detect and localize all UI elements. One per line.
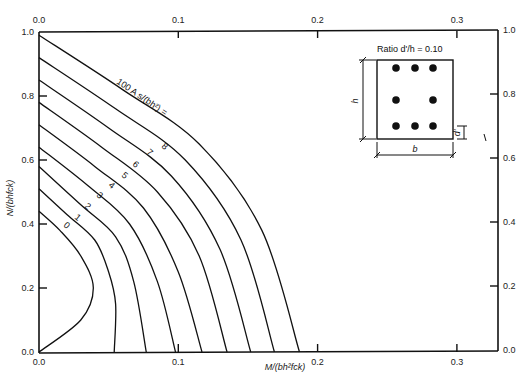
curve-label-8: 8 bbox=[160, 141, 170, 152]
right-y-tick-label: 0.6 bbox=[503, 153, 516, 163]
curve-label-5: 5 bbox=[120, 170, 130, 181]
curve-4 bbox=[39, 125, 202, 352]
y-tick-label: 0.8 bbox=[21, 91, 34, 101]
y-axis-title: N/(bhfck) bbox=[5, 180, 15, 217]
right-y-tick-label: 0.4 bbox=[503, 217, 516, 227]
stray-mark bbox=[484, 134, 486, 141]
curve-0 bbox=[39, 211, 93, 352]
curve-family-label: 100 A s/(bh²) = bbox=[115, 76, 169, 117]
y-tick-label: 0.4 bbox=[21, 219, 34, 229]
d-label: d' bbox=[452, 129, 462, 136]
curve-6 bbox=[39, 80, 251, 352]
x-axis-title: M/(bh²fck) bbox=[265, 362, 306, 372]
right-y-tick-label: 0.0 bbox=[503, 345, 516, 355]
h-label: h bbox=[350, 98, 360, 103]
x-tick-label: 0.1 bbox=[172, 357, 185, 367]
top-x-tick-label: 0.0 bbox=[33, 15, 46, 25]
b-label: b bbox=[412, 144, 417, 154]
interaction-chart: 0.00.10.20.30.00.10.20.30.00.20.40.60.81… bbox=[0, 0, 530, 382]
curve-label-6: 6 bbox=[131, 159, 141, 170]
ratio-label: Ratio d'/h = 0.10 bbox=[377, 44, 443, 54]
axis-tick-labels: 0.00.10.20.30.00.10.20.30.00.20.40.60.81… bbox=[21, 15, 515, 367]
top-x-tick-label: 0.1 bbox=[172, 15, 185, 25]
curve-labels: 012345678 bbox=[62, 141, 170, 231]
y-tick-label: 0.2 bbox=[21, 283, 34, 293]
column-section-inset: Ratio d'/h = 0.10 h b bbox=[350, 44, 486, 158]
curve-label-2: 2 bbox=[83, 201, 93, 212]
curve-label-7: 7 bbox=[145, 147, 155, 158]
right-y-tick-label: 1.0 bbox=[503, 25, 516, 35]
top-x-tick-label: 0.3 bbox=[451, 15, 464, 25]
curve-label-4: 4 bbox=[107, 180, 117, 191]
right-y-tick-label: 0.8 bbox=[503, 89, 516, 99]
curve-label-0: 0 bbox=[62, 220, 72, 231]
x-tick-label: 0.2 bbox=[311, 357, 324, 367]
y-tick-label: 0.6 bbox=[21, 155, 34, 165]
h-dimension bbox=[359, 57, 376, 142]
top-x-tick-label: 0.2 bbox=[311, 15, 324, 25]
x-tick-label: 0.3 bbox=[451, 357, 464, 367]
curve-3 bbox=[39, 147, 176, 352]
curve-family bbox=[39, 35, 299, 352]
y-tick-label: 0.0 bbox=[21, 347, 34, 357]
y-tick-label: 1.0 bbox=[21, 27, 34, 37]
right-y-tick-label: 0.2 bbox=[503, 281, 516, 291]
plot-frame bbox=[39, 30, 498, 353]
x-tick-label: 0.0 bbox=[33, 357, 46, 367]
rebar-dots bbox=[392, 64, 437, 130]
